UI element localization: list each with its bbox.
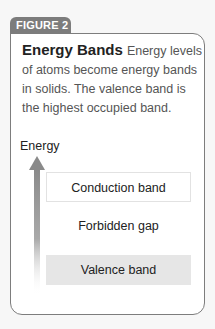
conduction-band-label: Conduction band [71,181,166,195]
figure-title: Energy Bands [22,41,123,58]
energy-axis-label: Energy [20,139,60,153]
figure-tab: FIGURE 2 [10,17,71,34]
figure-caption: Energy BandsEnergy levels of atoms becom… [22,40,202,118]
conduction-band: Conduction band [46,172,191,202]
forbidden-gap-label: Forbidden gap [46,219,191,233]
arrow-up-icon [28,156,46,296]
figure-tab-label: FIGURE 2 [16,19,68,31]
valence-band: Valence band [46,255,191,285]
valence-band-label: Valence band [81,263,157,277]
